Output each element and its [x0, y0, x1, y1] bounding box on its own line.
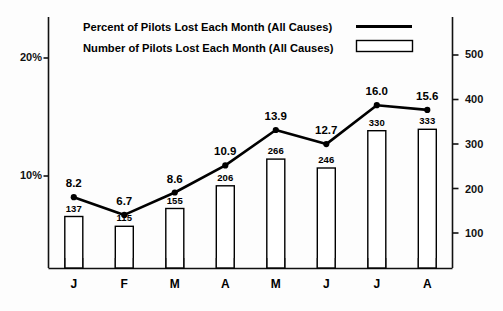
line-marker-6	[374, 102, 380, 108]
category-label-2: M	[170, 278, 180, 290]
bar-F-1	[115, 226, 133, 268]
line-marker-7	[424, 107, 430, 113]
line-value-label-2: 8.6	[167, 174, 183, 186]
line-marker-3	[222, 162, 228, 168]
right-axis-ticks	[453, 55, 459, 233]
category-label-3: A	[221, 278, 230, 290]
bar-value-label-3: 206	[217, 173, 233, 183]
line-value-label-5: 12.7	[315, 125, 337, 137]
bar-J-5	[317, 168, 335, 268]
bar-value-label-1: 115	[117, 213, 132, 223]
legend-bar-swatch	[357, 41, 413, 52]
line-value-label-4: 13.9	[265, 111, 287, 123]
line-marker-4	[273, 127, 279, 133]
line-value-label-0: 8.2	[66, 178, 82, 190]
bar-J-6	[368, 131, 386, 268]
bar-A-3	[216, 186, 234, 268]
category-label-6: J	[373, 278, 380, 290]
category-label-4: M	[271, 278, 281, 290]
category-label-0: J	[70, 278, 77, 290]
bar-value-label-2: 155	[167, 196, 183, 206]
bar-A-7	[418, 129, 436, 268]
category-label-1: F	[121, 278, 128, 290]
bar-value-label-7: 333	[419, 116, 435, 126]
chart-container: Percent of Pilots Lost Each Month (All C…	[0, 0, 503, 311]
line-value-label-6: 16.0	[366, 86, 388, 98]
line-marker-5	[323, 141, 329, 147]
bar-value-label-5: 246	[318, 155, 334, 165]
bar-value-label-6: 330	[369, 118, 385, 128]
bar-M-4	[267, 159, 285, 268]
line-marker-0	[71, 194, 77, 200]
category-label-7: A	[423, 278, 432, 290]
bar-J-0	[65, 217, 83, 269]
bar-M-2	[166, 209, 184, 269]
bar-value-label-0: 137	[66, 204, 82, 214]
line-value-label-1: 6.7	[116, 196, 132, 208]
category-label-5: J	[323, 278, 330, 290]
bar-value-label-4: 266	[268, 146, 284, 156]
chart-plot-area	[0, 0, 503, 311]
line-value-label-3: 10.9	[214, 146, 236, 158]
line-value-label-7: 15.6	[416, 91, 438, 103]
